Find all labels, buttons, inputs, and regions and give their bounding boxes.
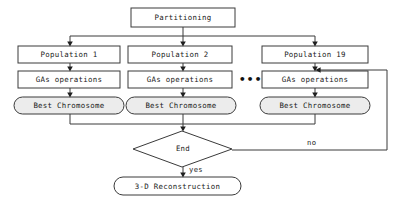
shape-best-chromosome-1[interactable] <box>14 97 124 114</box>
shape-gas-operations-3[interactable] <box>262 71 368 88</box>
edge-label-yes: yes <box>189 165 203 174</box>
shape-population-19[interactable] <box>262 46 368 63</box>
shape-best-chromosome-2[interactable] <box>126 97 236 114</box>
shape-population-1[interactable] <box>18 46 120 63</box>
shape-end-decision[interactable] <box>133 131 232 167</box>
shape-gas-operations-2[interactable] <box>128 71 232 88</box>
shape-best-chromosome-3[interactable] <box>260 97 370 114</box>
shape-3d-reconstruction[interactable] <box>114 177 241 195</box>
shape-partitioning[interactable] <box>131 8 235 27</box>
shape-population-2[interactable] <box>128 46 232 63</box>
ellipsis-icon: ••• <box>239 74 262 85</box>
flowchart-canvas: Partitioning Population 1 Population 2 P… <box>0 0 404 203</box>
shape-gas-operations-1[interactable] <box>18 71 120 88</box>
edge-label-no: no <box>307 138 316 147</box>
